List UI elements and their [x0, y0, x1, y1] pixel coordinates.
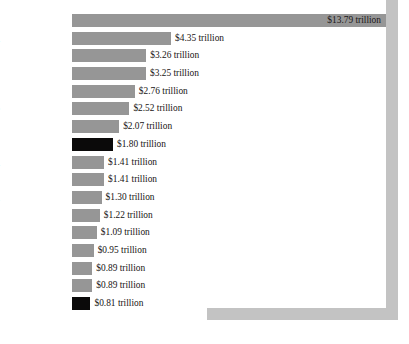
bar-track: $3.25 trillion — [72, 67, 386, 80]
bar-track: $0.81 trillion — [72, 297, 386, 310]
bar-track: $0.89 trillion — [72, 279, 386, 292]
value-label: $4.35 trillion — [171, 32, 224, 45]
bar-track: $2.76 trillion — [72, 85, 386, 98]
bar-track: $0.89 trillion — [72, 262, 386, 275]
bar-row: California$1.80 trillion — [0, 138, 386, 156]
bar-row: France$2.52 trillion — [0, 102, 386, 120]
bar-highlighted — [72, 297, 90, 310]
bar-row: U.S.$13.79 trillion — [0, 14, 386, 32]
value-label: $1.41 trillion — [104, 156, 157, 169]
bar-row: Korea$0.95 trillion — [0, 244, 386, 262]
bar-row: India$1.09 trillion — [0, 226, 386, 244]
bar-track: $2.52 trillion — [72, 102, 386, 115]
bar-row: Japan$4.35 trillion — [0, 32, 386, 50]
bar — [72, 49, 146, 62]
bar-row: Spain$1.41 trillion — [0, 156, 386, 174]
bar-row: Mexico$0.89 trillion — [0, 279, 386, 297]
value-label: $1.41 trillion — [104, 173, 157, 186]
bar-track: $1.80 trillion — [72, 138, 386, 151]
value-label: $2.76 trillion — [135, 85, 188, 98]
value-label: $2.52 trillion — [129, 102, 182, 115]
bar-row: China$3.25 trillion — [0, 67, 386, 85]
bar-row: Los Angeles*$0.81 trillion — [0, 297, 386, 315]
bar-track: $0.95 trillion — [72, 244, 386, 257]
bar-track: $1.41 trillion — [72, 173, 386, 186]
value-label: $0.89 trillion — [92, 262, 145, 275]
bar-row: Australia$0.89 trillion — [0, 262, 386, 280]
bar — [72, 156, 104, 169]
value-label: $2.07 trillion — [119, 120, 172, 133]
frame-right-accent — [386, 0, 398, 318]
bar-row: Russia$1.22 trillion — [0, 209, 386, 227]
bar — [72, 102, 129, 115]
bar — [72, 191, 102, 204]
bar — [72, 226, 97, 239]
bar — [72, 262, 92, 275]
value-label: $3.26 trillion — [146, 49, 199, 62]
bar-row: Italy$2.07 trillion — [0, 120, 386, 138]
value-label: $0.89 trillion — [92, 279, 145, 292]
bar — [72, 32, 171, 45]
bar-track: $1.30 trillion — [72, 191, 386, 204]
value-label: $3.25 trillion — [146, 67, 199, 80]
bar — [72, 244, 94, 257]
value-label: $13.79 trillion — [72, 14, 386, 27]
plot-area: U.S.$13.79 trillionJapan$4.35 trillionGe… — [0, 14, 386, 314]
bar — [72, 279, 92, 292]
bar — [72, 120, 119, 133]
bar — [72, 85, 135, 98]
bar-track: $4.35 trillion — [72, 32, 386, 45]
bar-track: $13.79 trillion — [72, 14, 386, 27]
bar — [72, 173, 104, 186]
bar — [72, 209, 100, 222]
value-label: $1.09 trillion — [97, 226, 150, 239]
value-label: $1.80 trillion — [113, 138, 166, 151]
value-label: $0.81 trillion — [90, 297, 143, 310]
value-label: $0.95 trillion — [94, 244, 147, 257]
bar — [72, 67, 146, 80]
bar-highlighted — [72, 138, 113, 151]
bar-row: Germany$3.26 trillion — [0, 49, 386, 67]
bar-row: Brazil$1.30 trillion — [0, 191, 386, 209]
bar-track: $1.09 trillion — [72, 226, 386, 239]
bar-track: $2.07 trillion — [72, 120, 386, 133]
value-label: $1.22 trillion — [100, 209, 153, 222]
bar-row: Canada$1.41 trillion — [0, 173, 386, 191]
bar-track: $3.26 trillion — [72, 49, 386, 62]
bar-chart: U.S.$13.79 trillionJapan$4.35 trillionGe… — [0, 0, 409, 344]
value-label: $1.30 trillion — [102, 191, 155, 204]
bar-track: $1.22 trillion — [72, 209, 386, 222]
bar-track: $1.41 trillion — [72, 156, 386, 169]
bar-row: UK$2.76 trillion — [0, 85, 386, 103]
